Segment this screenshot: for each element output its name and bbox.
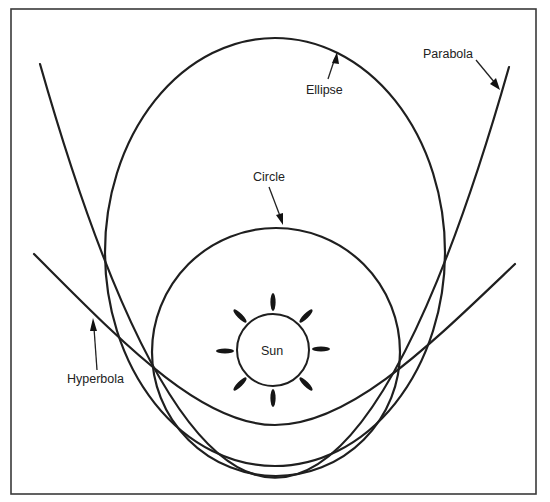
parabola-arrow-icon [476,60,500,90]
circle-label: Circle [253,170,285,184]
ellipse-arrow-icon [328,52,339,79]
ellipse-label: Ellipse [306,83,343,97]
orbit-diagram: Sun Ellipse Parabola Circle Hyperbola [0,0,550,502]
sun-label: Sun [261,344,283,358]
hyperbola-label: Hyperbola [67,372,124,386]
circle-arrow-icon [269,187,283,225]
diagram-frame [11,9,536,494]
parabola-orbit [40,64,509,478]
parabola-label: Parabola [423,47,473,61]
hyperbola-arrow-icon [90,318,97,370]
